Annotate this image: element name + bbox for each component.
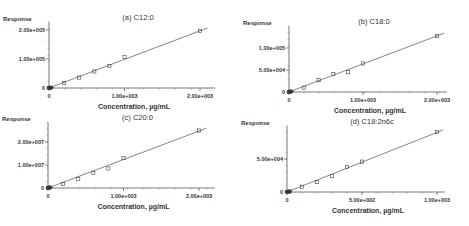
x-tick-label: 0 (47, 93, 50, 99)
y-tick-label: 0 (280, 189, 283, 195)
chart-panel-c: (c) C20:0Response01.00e+0072.00e+00701.0… (2, 113, 215, 211)
x-tick-label: 1.00e+003 (110, 193, 136, 199)
x-axis-label: Concentration, µg/mL (334, 107, 407, 115)
data-point (77, 177, 80, 180)
x-tick-label: 2.00e+003 (186, 193, 212, 199)
x-tick-label: 0 (285, 197, 288, 203)
y-tick-label: 5.00e+004 (257, 156, 284, 162)
data-point (315, 181, 318, 184)
chart-title: (a) C12:0 (122, 13, 153, 22)
x-tick-label: 2.00e+003 (424, 97, 450, 103)
y-tick-label: 0 (41, 185, 44, 191)
chart-title: (b) C18:0 (358, 17, 389, 26)
y-tick-label: 0 (282, 89, 285, 95)
x-tick-label: 0 (287, 97, 290, 103)
origin-point-cluster (288, 90, 294, 93)
x-axis-label: Concentration, µg/mL (98, 103, 171, 111)
y-tick-label: 1.00e+007 (18, 162, 44, 168)
x-tick-label: 1.00e+003 (424, 197, 450, 203)
x-tick-label: 2.00e+003 (187, 93, 213, 99)
chart-panel-d: (d) C18:2n6cResponse05.00e+00405.00e+002… (241, 117, 450, 215)
origin-point-cluster (47, 186, 53, 189)
y-tick-label: 2.00e+007 (18, 139, 44, 145)
origin-point-cluster (48, 86, 54, 89)
origin-point-cluster (286, 190, 292, 193)
calibration-plots: (a) C12:0Response01.00e+0052.00e+00501.0… (0, 0, 469, 226)
y-axis-label: Response (3, 16, 32, 22)
regression-line (287, 130, 443, 192)
y-tick-label: 5.00e+004 (259, 67, 286, 73)
x-tick-label: 1.00e+003 (350, 97, 376, 103)
y-axis-label: Response (241, 120, 270, 126)
calibration-figure: (a) C12:0Response01.00e+0052.00e+00501.0… (0, 0, 469, 226)
regression-line (49, 28, 208, 88)
y-tick-label: 1.00e+005 (259, 45, 285, 51)
x-tick-label: 1.00e+003 (111, 93, 137, 99)
regression-line (289, 33, 444, 92)
y-tick-label: 0 (42, 85, 45, 91)
x-tick-label: 5.00e+002 (349, 197, 375, 203)
regression-line (48, 128, 207, 188)
data-point (330, 175, 333, 178)
y-tick-label: 1.00e+005 (19, 56, 45, 62)
chart-panel-b: (b) C18:0Response05.00e+0041.00e+00501.0… (243, 17, 450, 115)
chart-panel-a: (a) C12:0Response01.00e+0052.00e+00501.0… (3, 13, 215, 111)
data-point (107, 167, 110, 170)
data-point (92, 171, 95, 174)
y-axis-label: Response (2, 116, 31, 122)
x-axis-label: Concentration, µg/mL (97, 203, 170, 211)
data-point (123, 55, 126, 58)
x-tick-label: 0 (46, 193, 49, 199)
y-axis-label: Response (243, 20, 272, 26)
data-point (347, 71, 350, 74)
x-axis-label: Concentration, µg/mL (332, 207, 405, 215)
y-tick-label: 2.00e+005 (19, 27, 45, 33)
chart-title: (c) C20:0 (122, 113, 153, 122)
chart-title: (d) C18:2n6c (350, 117, 394, 126)
